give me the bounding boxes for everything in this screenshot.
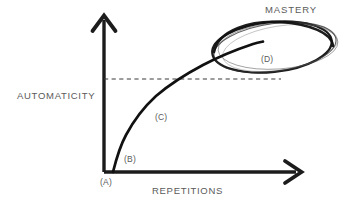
stage-label-d: (D) bbox=[261, 55, 273, 64]
stage-label-b: (B) bbox=[124, 155, 136, 164]
x-axis-label: REPETITIONS bbox=[152, 186, 223, 196]
stage-label-c: (C) bbox=[155, 113, 167, 122]
mastery-ellipse bbox=[210, 15, 341, 80]
mastery-label: MASTERY bbox=[265, 5, 317, 15]
learning-curve-path bbox=[113, 42, 263, 172]
stage-label-a: (A) bbox=[100, 178, 112, 187]
figure-canvas bbox=[0, 0, 354, 208]
y-axis-label: AUTOMATICITY bbox=[17, 91, 95, 101]
learning-curve-figure: AUTOMATICITY REPETITIONS MASTERY (A) (B)… bbox=[0, 0, 354, 208]
